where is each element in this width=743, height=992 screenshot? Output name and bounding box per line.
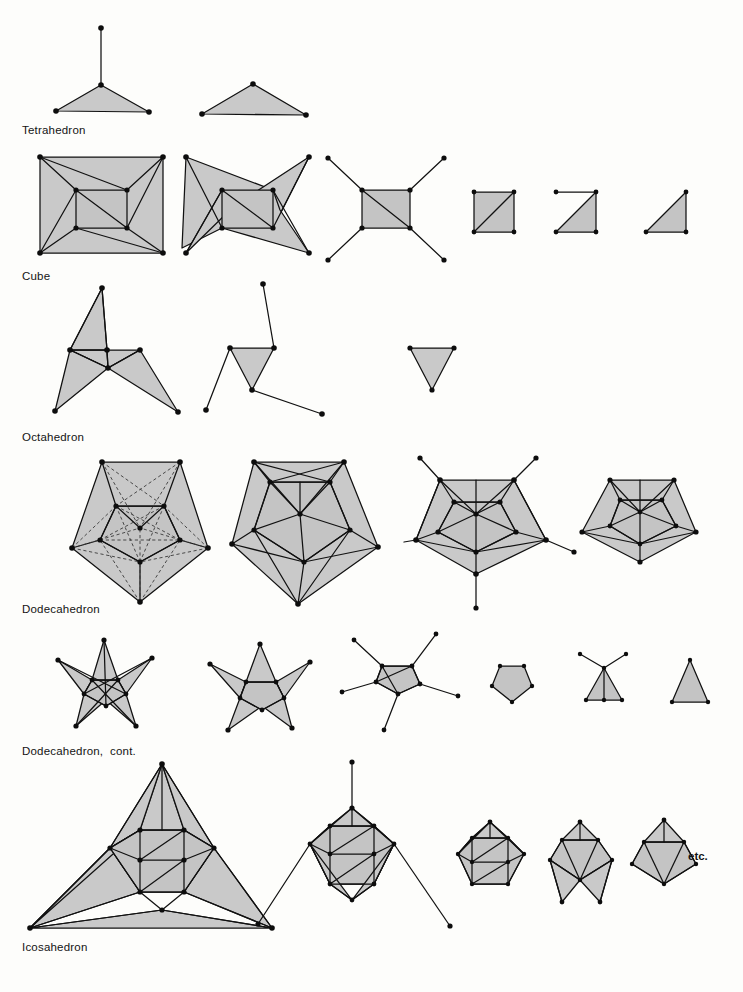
dodecahedron-stage-3 [404, 452, 579, 617]
cube-stage-5 [550, 186, 610, 244]
row-label-dodecahedron: Dodecahedron [22, 603, 100, 615]
row-label-dodecahedron-cont: Dodecahedron, cont. [22, 745, 136, 757]
dodecahedron-stage-2 [226, 452, 406, 617]
dodecahedron-stage-4 [566, 462, 711, 582]
dodecahedron-cont-stage-1 [40, 628, 190, 738]
dodecahedron-cont-stage-6 [662, 650, 722, 712]
icosahedron-stage-2 [248, 756, 473, 936]
cube-stage-1 [30, 150, 180, 270]
cube-stage-2 [176, 150, 326, 270]
dodecahedron-stage-1 [28, 452, 228, 617]
cube-stage-4 [468, 186, 528, 244]
row-label-icosahedron: Icosahedron [22, 941, 88, 953]
tetrahedron-stage-2 [190, 60, 330, 130]
icosahedron-stage-3 [450, 810, 550, 905]
row-label-tetrahedron: Tetrahedron [22, 124, 86, 136]
dodecahedron-cont-stage-5 [572, 648, 638, 714]
dodecahedron-cont-stage-2 [200, 636, 335, 736]
dodecahedron-cont-stage-3 [340, 626, 485, 738]
cube-stage-6 [640, 186, 700, 244]
octahedron-stage-3 [400, 338, 470, 398]
cube-stage-3 [322, 150, 462, 270]
dodecahedron-cont-stage-4 [484, 658, 544, 714]
octahedron-stage-2 [200, 278, 350, 420]
row-label-octahedron: Octahedron [22, 431, 84, 443]
figure-plate: Tetrahedron [0, 0, 743, 992]
row-label-cube: Cube [22, 270, 50, 282]
etc-annotation: etc. [688, 850, 708, 862]
